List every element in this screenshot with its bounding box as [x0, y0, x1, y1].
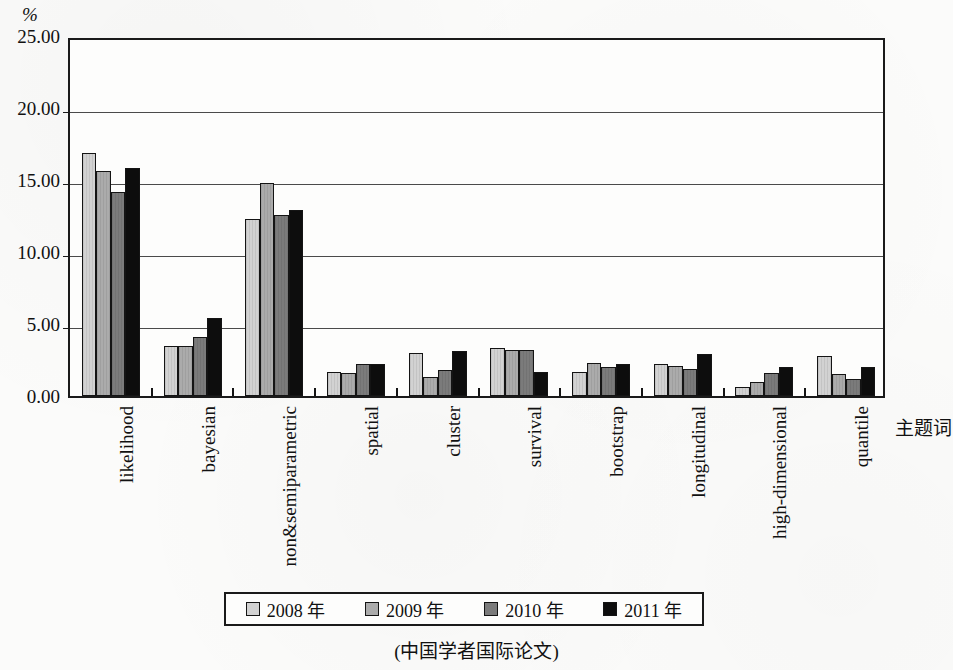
- bar: [438, 370, 453, 396]
- legend-swatch-icon: [365, 602, 379, 616]
- y-axis-tick-label: 5.00: [0, 314, 60, 336]
- x-axis-tick-mark: [396, 388, 398, 396]
- y-axis-tick-label: 10.00: [0, 242, 60, 264]
- bar: [370, 364, 385, 396]
- bar: [452, 351, 467, 396]
- x-axis-category-label-wrap: likelihood: [117, 406, 136, 483]
- bar: [356, 364, 371, 396]
- x-axis-category-label: bootstrap: [607, 406, 626, 477]
- x-axis-category-label: longitudinal: [689, 406, 708, 498]
- bar-group: [82, 40, 140, 396]
- legend-label: 2011 年: [624, 596, 682, 622]
- bar: [750, 382, 765, 396]
- x-axis-category-label: quantile: [852, 406, 871, 467]
- y-axis-tick-mark: [63, 328, 70, 329]
- x-axis-tick-mark: [723, 388, 725, 396]
- bars-layer: [70, 40, 883, 396]
- bar: [668, 366, 683, 396]
- legend-swatch-icon: [603, 602, 617, 616]
- x-axis-category-label-wrap: quantile: [852, 406, 871, 467]
- y-axis-tick-mark: [63, 184, 70, 185]
- bar-group: [490, 40, 548, 396]
- y-axis-tick-mark: [63, 256, 70, 257]
- bar: [207, 318, 222, 396]
- bar-group: [817, 40, 875, 396]
- bar: [861, 367, 876, 396]
- x-axis-category-label: likelihood: [117, 406, 136, 483]
- x-axis-tick-mark: [641, 388, 643, 396]
- y-axis-unit-label: %: [22, 4, 38, 26]
- x-axis-tick-mark: [232, 388, 234, 396]
- x-axis-tick-mark: [559, 388, 561, 396]
- bar: [519, 350, 534, 396]
- legend: 2008 年2009 年2010 年2011 年: [224, 592, 704, 626]
- bar: [817, 356, 832, 396]
- bar: [735, 387, 750, 396]
- bar: [274, 215, 289, 396]
- figure-caption: (中国学者国际论文): [0, 636, 953, 663]
- bar: [327, 372, 342, 396]
- bar: [111, 192, 126, 396]
- bar: [490, 348, 505, 396]
- bar: [534, 372, 549, 396]
- x-axis-tick-mark: [478, 388, 480, 396]
- legend-swatch-icon: [246, 602, 260, 616]
- x-axis-category-label-wrap: non&semiparametric: [280, 406, 299, 566]
- bar: [697, 354, 712, 396]
- bar: [164, 346, 179, 396]
- x-axis-category-label: cluster: [444, 406, 463, 457]
- y-axis-tick-label: 0.00: [0, 386, 60, 408]
- legend-item: 2008 年: [246, 596, 326, 622]
- bar: [683, 369, 698, 396]
- x-axis-category-label-wrap: high-dimensional: [770, 406, 789, 539]
- x-axis-category-label: high-dimensional: [770, 406, 789, 539]
- y-axis-tick-label: 25.00: [0, 26, 60, 48]
- bar-group: [164, 40, 222, 396]
- bar: [125, 168, 140, 396]
- figure-container: % 0.005.0010.0015.0020.0025.00 likelihoo…: [0, 0, 953, 670]
- x-axis-category-label-wrap: survival: [525, 406, 544, 467]
- bar: [616, 364, 631, 396]
- bar-group: [327, 40, 385, 396]
- x-axis-category-labels: likelihoodbayesiannon&semiparametricspat…: [68, 400, 885, 590]
- bar: [832, 374, 847, 396]
- plot-area: [68, 38, 885, 398]
- legend-label: 2010 年: [505, 596, 564, 622]
- legend-swatch-icon: [484, 602, 498, 616]
- x-axis-category-label: spatial: [362, 406, 381, 456]
- x-axis-category-label-wrap: bootstrap: [607, 406, 626, 477]
- bar: [572, 372, 587, 396]
- bar-group: [735, 40, 793, 396]
- x-axis-category-label-wrap: spatial: [362, 406, 381, 456]
- legend-item: 2009 年: [365, 596, 445, 622]
- x-axis-category-label: survival: [525, 406, 544, 467]
- x-axis-category-label-wrap: bayesian: [199, 406, 218, 472]
- bar: [846, 379, 861, 396]
- x-axis-category-label: non&semiparametric: [280, 406, 299, 566]
- bar: [601, 367, 616, 396]
- legend-label: 2008 年: [267, 596, 326, 622]
- legend-item: 2010 年: [484, 596, 564, 622]
- bar: [764, 373, 779, 396]
- bar: [341, 373, 356, 396]
- bar-group: [572, 40, 630, 396]
- bar-group: [245, 40, 303, 396]
- bar: [779, 367, 794, 396]
- x-axis-title: 主题词: [895, 413, 952, 440]
- x-axis-tick-mark: [151, 388, 153, 396]
- bar: [193, 337, 208, 396]
- bar: [505, 350, 520, 396]
- legend-item: 2011 年: [603, 596, 682, 622]
- bar: [654, 364, 669, 396]
- legend-label: 2009 年: [386, 596, 445, 622]
- bar: [178, 346, 193, 396]
- y-axis-tick-label: 15.00: [0, 170, 60, 192]
- bar-group: [654, 40, 712, 396]
- bar: [82, 153, 97, 396]
- bar: [423, 377, 438, 396]
- x-axis-category-label-wrap: cluster: [444, 406, 463, 457]
- x-axis-category-label-wrap: longitudinal: [689, 406, 708, 498]
- bar-group: [409, 40, 467, 396]
- x-axis-category-label: bayesian: [199, 406, 218, 472]
- y-axis-tick-mark: [63, 112, 70, 113]
